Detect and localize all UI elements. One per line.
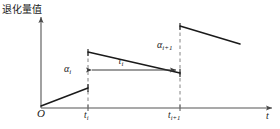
x-tick-label-ti: ti [84, 111, 89, 121]
x-axis-label: t [266, 111, 269, 121]
alpha-i-sub: i [69, 68, 71, 76]
x-tick-label-ti1-sub: i+1 [171, 114, 181, 121]
alpha-i1-sub: i+1 [162, 44, 172, 52]
x-tick-label-ti-sub: i [87, 114, 89, 121]
tau-i-label: τi [118, 56, 124, 68]
x-tick-label-ti1: ti+1 [168, 111, 180, 121]
degradation-diagram-figure: 退化量值 t O ti ti+1 αi αi+1 τi [0, 0, 280, 129]
y-axis-label: 退化量值 [2, 5, 42, 15]
alpha-i-label: αi [64, 64, 71, 76]
alpha-i1-label: αi+1 [157, 40, 172, 52]
origin-label: O [37, 108, 45, 119]
tau-i-sub: i [122, 60, 124, 68]
degradation-segment-2 [180, 26, 240, 44]
degradation-segment-0 [41, 88, 88, 106]
